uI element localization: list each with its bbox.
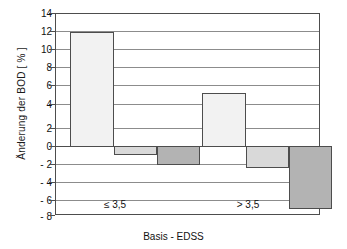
- bar-group1-series3: [157, 146, 200, 165]
- gridline-neg4: [56, 182, 319, 183]
- bar-group2-series2: [246, 146, 289, 168]
- y-tick-label: 2: [18, 123, 52, 134]
- y-tick-label: 4: [18, 99, 52, 110]
- gridline-neg6: [56, 200, 319, 201]
- y-tick-label: - 8: [18, 211, 52, 222]
- y-tick-label: 0: [18, 141, 52, 152]
- y-tick-label: - 6: [18, 195, 52, 206]
- y-axis-tick-labels: 14 12 10 8 6 4 2 0 - 2 - 4 - 6 - 8: [14, 0, 52, 249]
- y-tick-label: - 4: [18, 177, 52, 188]
- bar-chart: Änderung der BOD [ % ] 14 12 10 8 6 4 2 …: [0, 0, 347, 249]
- x-category-label-2: > 3,5: [237, 199, 260, 210]
- bar-group1-series2: [114, 146, 157, 155]
- y-tick-label: 8: [18, 62, 52, 73]
- y-tick-label: - 2: [18, 159, 52, 170]
- y-axis-tick-mark: [49, 215, 55, 216]
- bar-group1-series1: [70, 32, 114, 147]
- bar-group2-series1: [202, 93, 246, 147]
- y-tick-label: 6: [18, 80, 52, 91]
- y-tick-label: 14: [18, 8, 52, 19]
- x-axis-title: Basis - EDSS: [0, 231, 347, 242]
- bar-group2-series3: [289, 146, 332, 209]
- y-tick-label: 12: [18, 26, 52, 37]
- x-category-label-1: ≤ 3,5: [104, 199, 126, 210]
- plot-area: [55, 13, 320, 215]
- y-tick-label: 10: [18, 44, 52, 55]
